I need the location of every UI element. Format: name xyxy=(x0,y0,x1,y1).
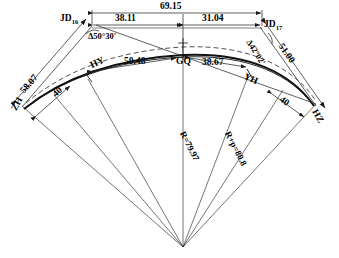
radial-spiral-left-end xyxy=(54,95,183,247)
arc-dimension-left: 50.48 xyxy=(124,57,145,67)
angle-arc-right xyxy=(268,33,272,44)
radial-hy xyxy=(88,79,183,247)
spiral-dimension-lines xyxy=(36,86,304,117)
vertex-label-jd17: JD17 xyxy=(264,20,282,31)
dim-line-tangent-right xyxy=(266,24,325,108)
alignment-drawing xyxy=(0,0,339,258)
radial-hz xyxy=(183,104,316,247)
radial-spiral-right-end xyxy=(183,90,283,247)
radial-zh xyxy=(22,106,183,247)
dimension-left-segment: 38.11 xyxy=(115,14,136,24)
point-label-gq: GQ xyxy=(176,57,191,67)
diagram-canvas: JD16 JD17 Δ50°30' Δ42°02' 69.15 38.11 31… xyxy=(0,0,339,258)
radial-lines xyxy=(22,49,316,247)
arc-dimension-right: 38.67 xyxy=(202,58,223,68)
dimension-right-segment: 31.04 xyxy=(202,14,223,24)
angle-label-left: Δ50°30' xyxy=(88,32,116,41)
tangent-dimension-lines xyxy=(16,19,325,108)
point-ticks xyxy=(86,69,252,82)
curve-inner-edge xyxy=(24,57,314,109)
dimension-total: 69.15 xyxy=(160,2,181,12)
vertex-label-jd16: JD16 xyxy=(60,14,78,25)
tangent-lines xyxy=(22,25,316,107)
